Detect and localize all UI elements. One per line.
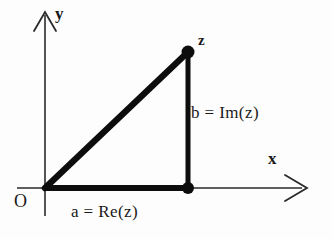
x-axis-label: x — [268, 150, 277, 167]
complex-plane-figure: y x z b = Im(z) a = Re(z) O — [0, 0, 332, 239]
y-axis-label: y — [55, 5, 64, 22]
modulus-segment — [45, 52, 188, 188]
real-part-label: a = Re(z) — [71, 203, 138, 220]
origin-label: O — [14, 192, 27, 210]
point-z-label: z — [198, 33, 205, 48]
figure-canvas — [0, 0, 332, 239]
point-z-marker — [182, 46, 195, 59]
imaginary-part-label: b = Im(z) — [191, 104, 259, 121]
point-a-marker — [182, 182, 194, 194]
